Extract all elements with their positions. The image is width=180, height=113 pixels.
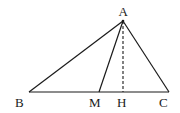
geometry-diagram: A B M H C	[0, 0, 180, 113]
segment-AC	[123, 21, 169, 92]
segment-AM	[99, 21, 123, 92]
label-H: H	[117, 95, 126, 110]
label-A: A	[119, 4, 129, 19]
label-C: C	[159, 95, 168, 110]
segment-AB	[29, 21, 123, 92]
label-M: M	[89, 95, 101, 110]
label-B: B	[15, 95, 24, 110]
vertex-A-dot	[122, 20, 125, 23]
triangle-figure: A B M H C	[0, 0, 180, 113]
